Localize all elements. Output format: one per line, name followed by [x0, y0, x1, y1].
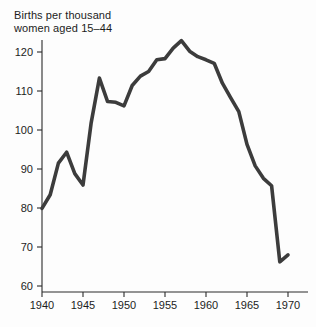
y-tick-label: 110: [15, 85, 33, 97]
y-tick-label: 60: [21, 280, 33, 292]
y-axis: 60708090100110120: [15, 40, 42, 292]
x-tick-label: 1960: [194, 299, 218, 311]
y-tick-label: 120: [15, 46, 33, 58]
x-tick-label: 1970: [276, 299, 300, 311]
data-series-group: [42, 41, 288, 262]
line-chart-plot: 60708090100110120 1940194519501955196019…: [0, 0, 316, 327]
data-line-path: [42, 41, 288, 262]
x-tick-label: 1950: [112, 299, 136, 311]
x-tick-label: 1955: [153, 299, 177, 311]
x-tick-label: 1940: [30, 299, 54, 311]
chart-container: Births per thousandwomen aged 15–44 6070…: [0, 0, 316, 327]
y-tick-label: 100: [15, 124, 33, 136]
x-tick-label: 1965: [235, 299, 259, 311]
y-tick-label: 90: [21, 163, 33, 175]
x-axis: 1940194519501955196019651970: [30, 292, 308, 311]
x-tick-label: 1945: [71, 299, 95, 311]
y-tick-label: 80: [21, 202, 33, 214]
y-tick-label: 70: [21, 241, 33, 253]
